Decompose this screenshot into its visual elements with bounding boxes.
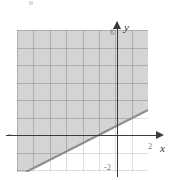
x-axis-arrow-icon xyxy=(156,131,164,139)
scan-artifact xyxy=(29,1,33,5)
boundary-line xyxy=(17,30,148,172)
graph-figure: y x 6 2 -2 - xyxy=(0,0,174,180)
y-axis xyxy=(117,22,118,177)
x-axis-left-tick-label: - xyxy=(8,130,11,139)
y-axis-label: y xyxy=(124,22,129,33)
plot-area xyxy=(17,30,148,172)
x-axis xyxy=(6,135,158,136)
x-tick-label-2: 2 xyxy=(148,142,152,151)
y-axis-arrow-icon xyxy=(113,21,121,29)
y-tick-label-6: 6 xyxy=(110,28,114,37)
y-tick-label-negative-2: -2 xyxy=(104,163,111,172)
x-axis-label: x xyxy=(160,143,165,154)
